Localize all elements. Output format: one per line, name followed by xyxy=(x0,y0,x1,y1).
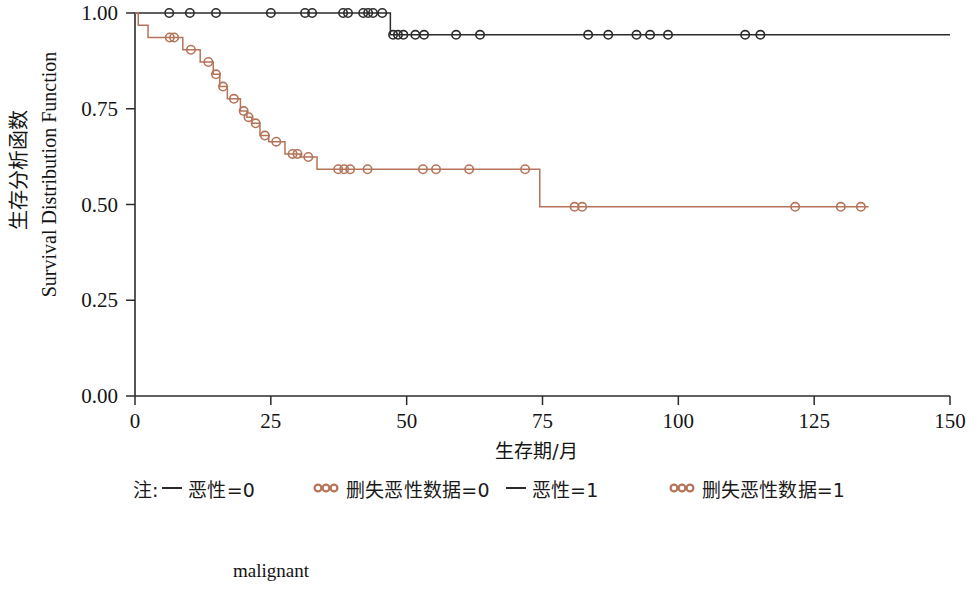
legend-label-0: 恶性=0 xyxy=(188,475,255,502)
x-tick-label: 50 xyxy=(396,409,417,433)
legend-label-1: 删失恶性数据=0 xyxy=(346,475,490,502)
legend-label-3: 删失恶性数据=1 xyxy=(702,475,846,502)
y-axis-ticks: 0.000.250.500.751.00 xyxy=(81,1,135,408)
legend-censor-icon-3 xyxy=(669,482,695,494)
legend-entry-0: 注: 恶性=0 xyxy=(133,475,255,502)
x-tick-label: 125 xyxy=(798,409,830,433)
x-tick-label: 150 xyxy=(934,409,966,433)
legend-entry-3: 删失恶性数据=1 xyxy=(669,475,846,502)
legend-censor-icon-1 xyxy=(313,482,339,494)
y-tick-label: 0.25 xyxy=(81,288,118,312)
legend-line-icon-0 xyxy=(162,487,182,489)
step-curve xyxy=(135,13,869,207)
x-tick-label: 75 xyxy=(532,409,553,433)
legend-label-2: 恶性=1 xyxy=(532,475,599,502)
series-malignant=0 xyxy=(135,9,950,39)
x-tick-label: 0 xyxy=(130,409,141,433)
km-survival-figure: 02550751001251500.000.250.500.751.00生存期/… xyxy=(0,0,978,603)
x-axis-title: 生存期/月 xyxy=(495,440,577,462)
y-tick-label: 0.75 xyxy=(81,97,118,121)
legend-entry-1: 删失恶性数据=0 xyxy=(313,475,490,502)
y-tick-label: 0.00 xyxy=(81,384,118,408)
legend-entry-2: 恶性=1 xyxy=(506,475,599,502)
plot-axes xyxy=(135,13,950,397)
y-axis-title-cn: 生存分析函数 xyxy=(7,110,31,230)
step-curve xyxy=(135,13,950,35)
figure-caption: malignant xyxy=(0,560,978,582)
x-axis-ticks: 0255075100125150 xyxy=(130,396,966,433)
km-plot-svg: 02550751001251500.000.250.500.751.00生存期/… xyxy=(0,0,978,603)
figure-caption-text: malignant xyxy=(233,560,309,581)
legend-note-prefix: 注: xyxy=(133,475,158,502)
y-tick-label: 0.50 xyxy=(81,193,118,217)
series-malignant=1 xyxy=(135,13,869,211)
legend-line-icon-2 xyxy=(506,487,526,489)
chart-legend: 注: 恶性=0 删失恶性数据=0 恶性=1 xyxy=(0,468,978,508)
y-axis-title-en: Survival Distribution Function xyxy=(38,52,60,298)
x-tick-label: 100 xyxy=(663,409,695,433)
y-tick-label: 1.00 xyxy=(81,1,118,25)
x-tick-label: 25 xyxy=(260,409,281,433)
